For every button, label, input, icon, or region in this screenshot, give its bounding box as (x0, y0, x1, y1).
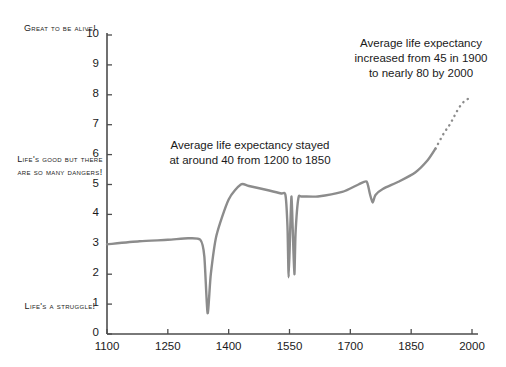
mood-label-top: Great to be alive! (12, 22, 108, 35)
x-tick-1700: 1700 (327, 340, 373, 352)
y-tick-2: 2 (79, 266, 99, 278)
y-tick-0: 0 (79, 326, 99, 338)
chart-page: 109876543210 110012501400155017001850200… (0, 0, 506, 367)
x-tick-1850: 1850 (388, 340, 434, 352)
x-tick-1100: 1100 (84, 340, 130, 352)
chart-series (107, 97, 472, 313)
y-tick-7: 7 (79, 117, 99, 129)
series-line-historical (107, 149, 436, 314)
annotation-plateau: Average life expectancy stayed at around… (155, 138, 345, 168)
mood-label-bottom: Life's a struggle! (12, 300, 108, 313)
y-tick-5: 5 (79, 177, 99, 189)
y-tick-4: 4 (79, 206, 99, 218)
x-tick-1400: 1400 (206, 340, 252, 352)
x-tick-1250: 1250 (145, 340, 191, 352)
x-tick-1550: 1550 (267, 340, 313, 352)
y-tick-8: 8 (79, 87, 99, 99)
y-tick-3: 3 (79, 236, 99, 248)
annotation-modern: Average life expectancy increased from 4… (336, 36, 506, 81)
mood-label-middle: Life's good but there are so many danger… (12, 153, 108, 178)
y-tick-9: 9 (79, 57, 99, 69)
series-line-projection (436, 97, 473, 148)
x-tick-2000: 2000 (449, 340, 495, 352)
